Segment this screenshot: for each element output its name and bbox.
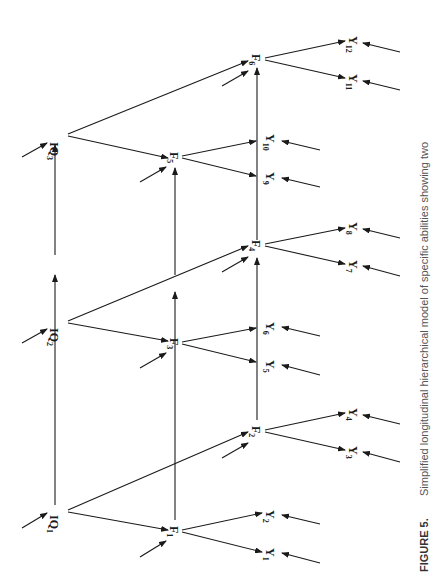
node-Y4: Y4 [344,408,360,421]
node-F3: F3 [165,338,181,349]
node-Y2: Y2 [261,510,277,523]
caption-text: Simplified longitudinal hierarchical mod… [418,142,430,496]
node-IQ2: IQ2 [45,328,61,346]
node-Y3: Y3 [344,446,360,459]
node-F1: F1 [165,526,181,537]
node-labels: IQ1 IQ2 IQ3 F1 F2 F3 F4 F5 F6 Y1 Y2 Y3 Y… [45,36,360,561]
figure-caption: FIGURE 5. Simplified longitudinal hierar… [418,142,430,572]
node-Y1: Y1 [261,548,277,561]
node-Y11: Y11 [344,74,360,90]
node-Y10: Y10 [261,134,277,151]
iq-to-f-edges [68,61,248,530]
caption-label: FIGURE 5. [418,518,430,572]
node-Y12: Y12 [344,36,360,53]
node-Y8: Y8 [344,222,360,235]
node-Y7: Y7 [344,260,360,273]
node-F2: F2 [247,426,263,437]
f-chains [175,68,257,520]
node-Y6: Y6 [261,322,277,335]
node-Y5: Y5 [261,360,277,373]
node-Y9: Y9 [261,172,277,185]
hierarchical-model-diagram: IQ1 IQ2 IQ3 F1 F2 F3 F4 F5 F6 Y1 Y2 Y3 Y… [0,0,435,582]
f-to-y-edges [182,41,345,552]
residual-arrows [22,43,400,563]
node-F5: F5 [165,152,181,163]
node-F6: F6 [247,54,263,65]
node-F4: F4 [247,240,263,251]
node-IQ3: IQ3 [45,142,61,160]
node-IQ1: IQ1 [45,515,61,533]
